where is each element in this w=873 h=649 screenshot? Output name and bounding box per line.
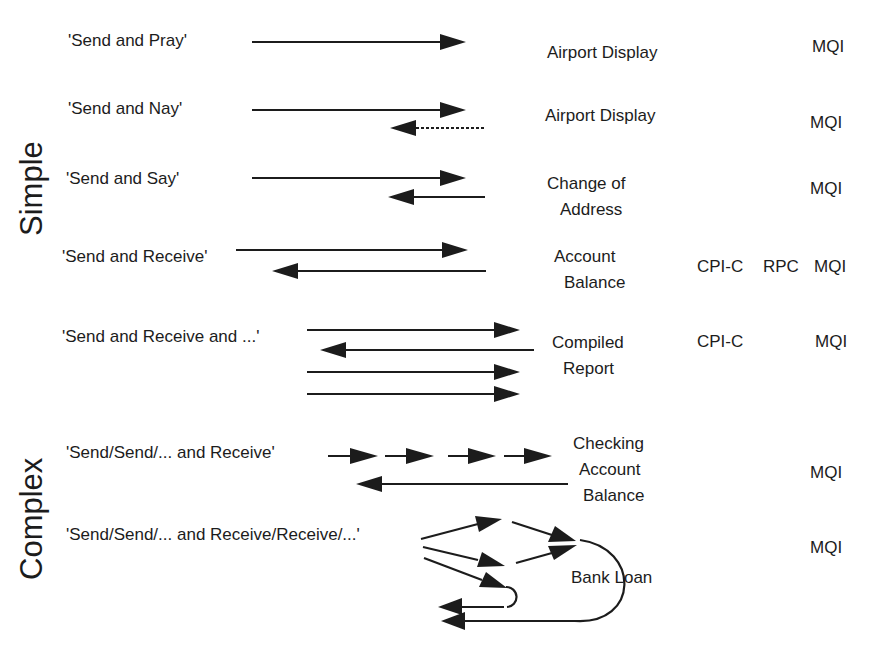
arrow-send-row6-3 — [448, 448, 496, 464]
arrow-fanout-row7 — [421, 516, 624, 630]
arrow-receive-row4 — [272, 263, 486, 279]
message-flow-arrows — [0, 0, 873, 649]
arrow-receive-row5 — [320, 342, 534, 358]
arrow-send-row6-4 — [504, 448, 552, 464]
arrow-send-row5-a — [307, 322, 520, 338]
arrow-send-row2 — [252, 102, 466, 118]
arrow-send-row6-1 — [328, 448, 378, 464]
arrow-send-row5-b — [307, 364, 520, 380]
arrow-send-row4 — [236, 242, 468, 258]
arrow-send-row6-2 — [385, 448, 434, 464]
arrow-send-row3 — [252, 170, 466, 186]
arrow-send-row1 — [252, 34, 466, 50]
arrow-dotted-nack-row2 — [390, 120, 486, 136]
arrow-receive-row6 — [356, 476, 568, 492]
arrow-send-row5-c — [307, 386, 520, 402]
arrow-reply-row3 — [388, 189, 485, 205]
